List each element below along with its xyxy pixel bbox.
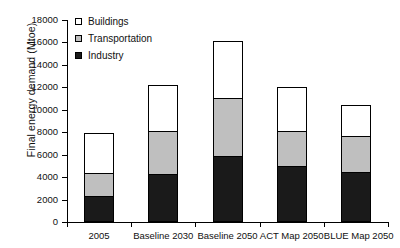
bar-segment-transportation <box>213 98 243 157</box>
x-axis-label-baseline-2050: Baseline 2050 <box>195 230 259 241</box>
legend-swatch-icon <box>75 52 82 59</box>
bar-stack <box>277 20 307 222</box>
y-axis-tick-label: 8000 <box>4 127 58 137</box>
bar-segment-industry <box>277 166 307 222</box>
x-axis-tick <box>67 222 68 227</box>
bar-segment-industry <box>84 196 114 222</box>
chart-legend: BuildingsTransportationIndustry <box>75 14 195 65</box>
x-axis-label-blue-map-2050: BLUE Map 2050 <box>324 230 388 241</box>
legend-item-buildings: Buildings <box>75 14 195 29</box>
x-axis-tick <box>260 222 261 227</box>
y-axis-tick-label: 18000 <box>4 15 58 25</box>
bar-segment-industry <box>148 174 178 222</box>
bar-segment-transportation <box>341 136 371 173</box>
legend-swatch-icon <box>75 18 82 25</box>
bar-segment-buildings <box>341 105 371 136</box>
x-axis-label-baseline-2030: Baseline 2030 <box>131 230 195 241</box>
y-axis-tick-label: 0 <box>4 217 58 227</box>
legend-label: Buildings <box>88 17 129 27</box>
y-axis-tick-label: 12000 <box>4 82 58 92</box>
energy-demand-stacked-bar-chart: Final energy demand (Mtoe) 0200040006000… <box>0 0 400 248</box>
x-axis-tick <box>324 222 325 227</box>
bar-segment-buildings <box>148 85 178 132</box>
x-axis-tick <box>131 222 132 227</box>
bar-segment-transportation <box>84 173 114 198</box>
bar-segment-transportation <box>277 131 307 167</box>
x-axis-tick <box>388 222 389 227</box>
bar-segment-buildings <box>213 41 243 98</box>
y-axis-tick-label: 16000 <box>4 37 58 47</box>
bar-stack <box>213 20 243 222</box>
y-axis-tick-label: 4000 <box>4 172 58 182</box>
legend-label: Transportation <box>88 34 152 44</box>
bar-segment-buildings <box>277 87 307 132</box>
y-axis-tick-label: 14000 <box>4 60 58 70</box>
y-axis-tick-label: 6000 <box>4 150 58 160</box>
y-axis-tick-label: 10000 <box>4 105 58 115</box>
legend-swatch-icon <box>75 35 82 42</box>
bar-segment-industry <box>213 156 243 222</box>
legend-item-industry: Industry <box>75 48 195 63</box>
legend-label: Industry <box>88 51 124 61</box>
x-axis-label-2005: 2005 <box>67 230 131 241</box>
bar-segment-industry <box>341 172 371 222</box>
y-axis-tick-label: 2000 <box>4 195 58 205</box>
x-axis-tick <box>195 222 196 227</box>
legend-item-transportation: Transportation <box>75 31 195 46</box>
bar-stack <box>341 20 371 222</box>
x-axis-line <box>67 222 389 223</box>
bar-segment-buildings <box>84 133 114 173</box>
bar-segment-transportation <box>148 131 178 175</box>
x-axis-label-act-map-2050: ACT Map 2050 <box>260 230 324 241</box>
